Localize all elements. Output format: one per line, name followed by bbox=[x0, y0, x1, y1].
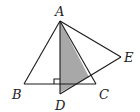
label-b: B bbox=[11, 87, 22, 102]
label-d: D bbox=[54, 98, 66, 112]
label-a: A bbox=[54, 4, 64, 19]
shaded-region bbox=[60, 21, 89, 93]
segment-ab bbox=[24, 21, 60, 84]
label-e: E bbox=[123, 50, 134, 65]
right-angle-mark bbox=[54, 79, 60, 84]
geometry-diagram: A B C D E bbox=[0, 0, 140, 112]
label-c: C bbox=[99, 87, 109, 102]
